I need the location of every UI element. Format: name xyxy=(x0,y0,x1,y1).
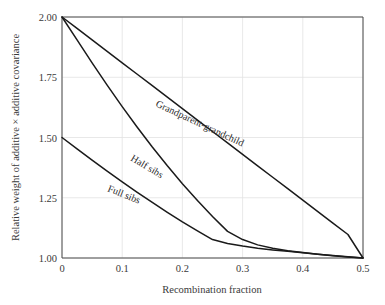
x-tick-label-0-2: 0.2 xyxy=(176,263,189,274)
x-tick-labels: 0 0.1 0.2 0.3 0.4 0.5 xyxy=(59,263,369,274)
x-tick-label-0-1: 0.1 xyxy=(116,263,129,274)
y-tick-label-1-00: 1.00 xyxy=(39,253,57,264)
x-tick-label-0-4: 0.4 xyxy=(296,263,310,274)
x-axis-title: Recombination fraction xyxy=(162,284,262,295)
y-tick-label-1-50: 1.50 xyxy=(39,133,57,144)
x-tick-label-0-5: 0.5 xyxy=(356,263,369,274)
y-axis-title: Relative weight of additive × additive c… xyxy=(10,34,21,241)
y-tick-labels: 2.00 1.75 1.50 1.25 1.00 xyxy=(39,12,57,264)
chart-figure: 2.00 1.75 1.50 1.25 1.00 0 0.1 0.2 0.3 0… xyxy=(0,0,385,305)
x-tick-label-0: 0 xyxy=(59,263,64,274)
y-tick-label-1-75: 1.75 xyxy=(39,72,57,83)
y-tick-label-2-00: 2.00 xyxy=(39,12,57,23)
chart-plot-svg: 2.00 1.75 1.50 1.25 1.00 0 0.1 0.2 0.3 0… xyxy=(0,0,385,305)
y-tick-label-1-25: 1.25 xyxy=(39,193,57,204)
x-tick-label-0-3: 0.3 xyxy=(236,263,249,274)
